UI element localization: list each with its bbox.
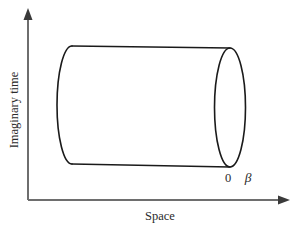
cylinder-right-cap-ellipse [215,48,246,167]
figure-canvas: Imaginary time Space 0 β [0,0,296,229]
cylinder-bottom-edge [72,164,230,167]
x-axis-arrow-icon [278,196,290,205]
y-axis-arrow-icon [24,8,33,20]
x-axis-label: Space [145,210,175,223]
annotation-zero: 0 [225,172,231,185]
annotation-beta: β [245,171,252,185]
y-axis-label: Imaginary time [8,72,21,149]
cylinder-left-cap-arc [57,46,72,164]
diagram-svg [0,0,296,229]
cylinder-top-edge [72,46,230,48]
